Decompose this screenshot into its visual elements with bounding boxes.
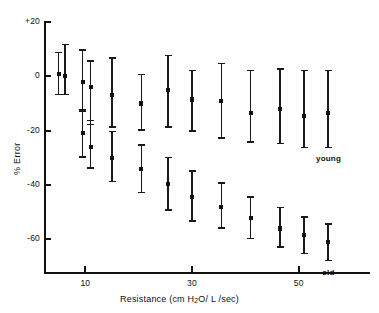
x-axis-title: Resistance (cm H2O/ L /sec) xyxy=(120,294,239,304)
error-bar-cap-lower xyxy=(218,227,225,229)
y-axis-tick-label: -20 xyxy=(6,126,40,135)
error-bar-cap-lower xyxy=(247,141,254,143)
error-bar-cap-upper xyxy=(79,109,86,111)
error-bar-cap-upper xyxy=(138,144,145,146)
y-axis-tick-label: 0 xyxy=(6,71,40,80)
error-bar-stem xyxy=(303,70,304,149)
y-axis-line xyxy=(44,22,46,272)
error-bar-cap-lower xyxy=(189,220,196,222)
y-axis-tick xyxy=(44,238,51,240)
error-bar-cap-upper xyxy=(138,74,145,76)
x-axis-tick xyxy=(84,266,86,273)
data-point-marker xyxy=(89,145,93,149)
error-bar-old xyxy=(187,170,197,222)
y-axis-title: % Error xyxy=(12,142,22,175)
data-point-marker xyxy=(278,226,282,230)
error-bar-cap-lower xyxy=(165,126,172,128)
error-bar-cap-lower xyxy=(109,126,116,128)
error-bar-cap-upper xyxy=(87,60,94,62)
y-axis-tick xyxy=(44,130,51,132)
data-point-marker xyxy=(249,216,253,220)
series-label-young: young xyxy=(316,154,341,163)
data-point-marker xyxy=(166,88,170,92)
error-bar-cap-upper xyxy=(165,157,172,159)
error-bar-young xyxy=(299,70,309,149)
error-bar-cap-upper xyxy=(87,120,94,122)
error-bar-cap-lower xyxy=(247,238,254,240)
error-bar-cap-lower xyxy=(138,129,145,131)
error-bar-cap-lower xyxy=(325,260,332,262)
error-bar-cap-upper xyxy=(109,131,116,133)
error-bar-young xyxy=(187,70,197,133)
error-bar-young xyxy=(136,74,146,131)
error-bar-young xyxy=(246,70,256,143)
error-bar-old xyxy=(163,157,173,211)
error-bar-cap-upper xyxy=(325,223,332,225)
error-bar-old xyxy=(216,182,226,228)
error-bar-cap-lower xyxy=(109,181,116,183)
error-bar-cap-upper xyxy=(218,182,225,184)
data-point-marker xyxy=(81,131,85,135)
error-bar-cap-upper xyxy=(62,44,69,46)
error-bar-cap-upper xyxy=(301,70,308,72)
error-bar-cap-upper xyxy=(325,70,332,72)
data-point-marker xyxy=(302,233,306,237)
error-bar-old xyxy=(275,207,285,248)
error-bar-cap-upper xyxy=(79,49,86,51)
error-bar-cap-upper xyxy=(189,170,196,172)
error-bar-cap-lower xyxy=(87,167,94,169)
error-bar-cap-upper xyxy=(301,216,308,218)
error-bar-old xyxy=(246,196,256,239)
x-axis-tick-label: 30 xyxy=(172,279,212,288)
data-point-marker xyxy=(139,101,143,105)
y-axis-tick xyxy=(44,75,51,77)
error-bar-cap-upper xyxy=(277,68,284,70)
data-point-marker xyxy=(302,114,306,118)
data-point-marker xyxy=(219,99,223,103)
data-point-marker xyxy=(110,156,114,160)
error-bar-young xyxy=(323,70,333,149)
data-point-marker xyxy=(190,195,194,199)
error-bar-stem xyxy=(90,60,91,125)
data-point-marker xyxy=(326,111,330,115)
x-axis-title-post: O/ L /sec) xyxy=(198,294,239,304)
x-axis-tick-label: 10 xyxy=(65,279,105,288)
series-label-old: old xyxy=(322,268,335,277)
error-bar-stem xyxy=(250,70,251,143)
y-axis-tick-label: +20 xyxy=(6,17,40,26)
error-bar-cap-lower xyxy=(138,192,145,194)
error-bar-old xyxy=(86,120,96,169)
error-bar-cap-lower xyxy=(62,94,69,96)
x-axis-tick-label: 50 xyxy=(279,279,319,288)
error-bar-young xyxy=(60,44,70,96)
error-bar-old xyxy=(323,223,333,261)
error-bar-cap-upper xyxy=(277,207,284,209)
chart-figure: +200-20-40-60103050 youngold % Error Res… xyxy=(0,0,379,313)
data-point-marker xyxy=(326,240,330,244)
data-point-marker xyxy=(166,182,170,186)
x-axis-tick xyxy=(298,266,300,273)
error-bar-young xyxy=(107,57,117,128)
data-point-marker xyxy=(249,111,253,115)
error-bar-old xyxy=(107,131,117,183)
error-bar-cap-lower xyxy=(301,253,308,255)
error-bar-cap-upper xyxy=(247,196,254,198)
error-bar-cap-lower xyxy=(301,147,308,149)
error-bar-cap-upper xyxy=(189,70,196,72)
y-axis-tick-label: -40 xyxy=(6,180,40,189)
error-bar-cap-lower xyxy=(218,137,225,139)
y-axis-tick xyxy=(44,21,51,23)
error-bar-old xyxy=(136,144,146,193)
error-bar-stem xyxy=(64,44,65,96)
y-axis-tick-label: -60 xyxy=(6,234,40,243)
error-bar-cap-lower xyxy=(277,246,284,248)
error-bar-stem xyxy=(327,70,328,149)
data-point-marker xyxy=(139,167,143,171)
error-bar-cap-lower xyxy=(277,143,284,145)
data-point-marker xyxy=(63,74,67,78)
data-point-marker xyxy=(81,80,85,84)
error-bar-cap-upper xyxy=(247,70,254,72)
error-bar-cap-upper xyxy=(165,55,172,57)
error-bar-cap-upper xyxy=(218,63,225,65)
error-bar-old xyxy=(299,216,309,254)
